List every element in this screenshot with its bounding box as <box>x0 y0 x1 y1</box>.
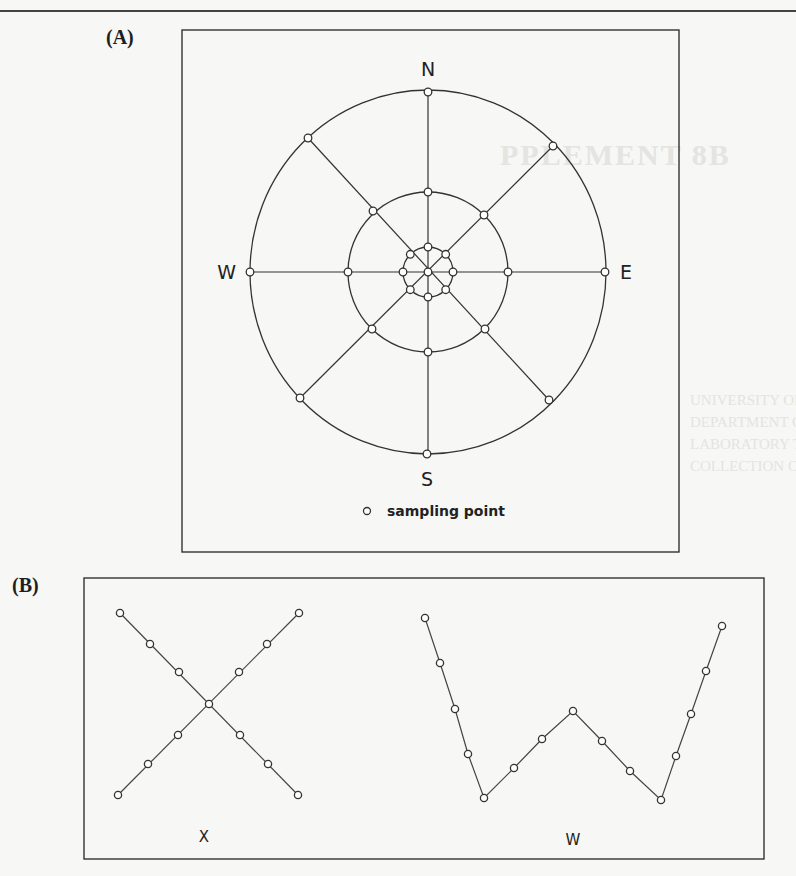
figure-canvas: N S E W sampling point <box>0 0 796 876</box>
sampling-point-icon <box>423 450 431 458</box>
sampling-point-icon <box>116 609 123 616</box>
sampling-point-icon <box>424 188 432 196</box>
sampling-point-icon <box>294 791 301 798</box>
sampling-point-icon <box>114 791 121 798</box>
sampling-point-icon <box>424 348 432 356</box>
sampling-point-icon <box>510 764 517 771</box>
sampling-point-icon <box>545 396 553 404</box>
sampling-point-icon <box>569 707 576 714</box>
sampling-point-icon <box>657 796 664 803</box>
legend: sampling point <box>364 503 506 519</box>
sampling-point-icon <box>263 640 270 647</box>
sampling-point-icon <box>480 211 488 219</box>
sampling-point-icon <box>538 735 545 742</box>
sampling-point-icon <box>264 760 271 767</box>
sampling-point-icon <box>464 750 471 757</box>
panel-a: N S E W sampling point <box>182 30 679 552</box>
w-pattern-label: W <box>566 831 581 849</box>
panel-b: X W <box>84 578 764 859</box>
sampling-point-icon <box>344 268 352 276</box>
legend-sampling-point-icon <box>364 508 371 515</box>
w-pattern: W <box>421 614 725 849</box>
sampling-point-icon <box>549 142 557 150</box>
sampling-point-icon <box>174 731 181 738</box>
compass-south-label: S <box>421 468 433 490</box>
sampling-point-icon <box>424 293 432 301</box>
sampling-point-icon <box>368 325 376 333</box>
sampling-point-icon <box>421 614 428 621</box>
sampling-point-icon <box>687 710 694 717</box>
x-pattern-label: X <box>199 828 209 846</box>
sampling-point-icon <box>702 667 709 674</box>
sampling-point-icon <box>718 622 725 629</box>
compass-east-label: E <box>620 261 632 283</box>
sampling-point-icon <box>399 268 407 276</box>
sampling-point-icon <box>451 705 458 712</box>
sampling-point-icon <box>436 659 443 666</box>
sampling-point-icon <box>407 251 415 259</box>
legend-text: sampling point <box>387 503 505 519</box>
sampling-point-icon <box>672 752 679 759</box>
sampling-point-icon <box>235 668 242 675</box>
sampling-point-icon <box>144 760 151 767</box>
sampling-point-icon <box>369 207 377 215</box>
compass-west-label: W <box>217 261 236 283</box>
sampling-point-icon <box>626 767 633 774</box>
sampling-point-icon <box>295 609 302 616</box>
sampling-point-icon <box>205 700 212 707</box>
sampling-point-icon <box>304 134 312 142</box>
sampling-point-icon <box>296 394 304 402</box>
sampling-point-icon <box>598 737 605 744</box>
sampling-point-icon <box>236 731 243 738</box>
sampling-point-icon <box>146 640 153 647</box>
sampling-point-icon <box>424 243 432 251</box>
sampling-point-icon <box>480 794 487 801</box>
sampling-point-icon <box>246 268 254 276</box>
sampling-point-icon <box>407 286 415 294</box>
sampling-point-icon <box>601 268 609 276</box>
sampling-point-icon <box>442 251 450 259</box>
sampling-point-icon <box>175 668 182 675</box>
x-pattern: X <box>114 609 302 846</box>
sampling-point-icon <box>424 88 432 96</box>
sampling-point-icon <box>481 325 489 333</box>
sampling-point-icon <box>449 268 457 276</box>
sampling-point-icon <box>504 268 512 276</box>
compass-north-label: N <box>421 58 435 80</box>
sampling-point-icon <box>442 286 450 294</box>
sampling-point-icon <box>424 268 432 276</box>
